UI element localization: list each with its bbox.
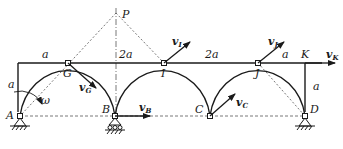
omega-label: ω (41, 94, 50, 107)
label-g: G (63, 67, 72, 80)
label-j: J (253, 67, 260, 80)
dim-top-right: a (282, 48, 289, 61)
label-vj: vJ (268, 35, 278, 49)
label-b: B (101, 103, 110, 116)
support-b-roller (105, 118, 125, 134)
label-k: K (300, 48, 310, 61)
labels: P A B C D G I J K a 2a 2a a a a ω vG vI … (5, 8, 339, 122)
dim-top-mid-2: 2a (204, 48, 219, 61)
label-vi: vI (172, 35, 182, 49)
dim-left-height: a (8, 78, 15, 91)
label-vk: vK (326, 48, 339, 62)
label-c: C (195, 103, 204, 116)
dim-right-height: a (313, 80, 320, 93)
dim-top-left: a (42, 48, 49, 61)
label-i: I (160, 67, 166, 80)
label-d: D (309, 103, 319, 116)
label-vb: vB (139, 101, 151, 115)
support-d (295, 118, 315, 130)
label-p: P (121, 8, 130, 21)
vector-vc (210, 94, 235, 116)
label-a: A (5, 109, 14, 122)
mechanism-diagram: P A B C D G I J K a 2a 2a a a a ω vG vI … (0, 0, 343, 149)
label-vc: vC (236, 96, 248, 110)
dim-top-mid-1: 2a (118, 48, 133, 61)
